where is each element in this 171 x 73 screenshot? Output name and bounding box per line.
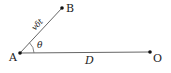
label-theta: θ <box>37 40 43 50</box>
point-b <box>60 6 64 10</box>
label-vdt: vδt <box>30 16 46 32</box>
label-b: B <box>66 2 74 15</box>
geometry-diagram: A B O D θ vδt <box>0 0 171 73</box>
point-a <box>18 51 22 55</box>
segment-ao <box>20 52 150 53</box>
label-a: A <box>8 51 18 64</box>
point-o <box>148 50 152 54</box>
label-d: D <box>84 54 94 67</box>
label-o: O <box>153 52 162 65</box>
angle-arc <box>30 43 35 53</box>
